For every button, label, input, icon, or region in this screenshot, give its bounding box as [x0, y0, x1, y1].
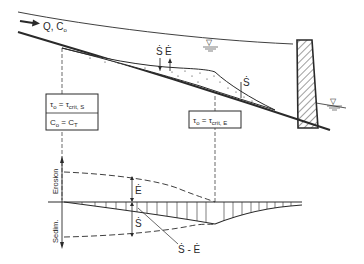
- deposition-dimension: [130, 202, 134, 237]
- net-label-leader: [138, 208, 178, 244]
- net-curve-label: Ṡ - Ė: [178, 243, 201, 255]
- axis-arrow-down-icon: [60, 242, 64, 249]
- svg-text:▽: ▽: [206, 38, 213, 47]
- water-level-symbol-upstream: ▽: [203, 38, 218, 51]
- dam-wall: [297, 40, 318, 128]
- condition-box-left: τo = τcrit, S Co = CT: [46, 94, 98, 130]
- deposition-curve-label: Ṡ: [135, 217, 142, 229]
- water-level-symbol-downstream: ▽: [316, 97, 346, 110]
- inflow-label: Q, Co: [43, 21, 68, 33]
- condition-concentration: Co = CT: [50, 118, 78, 128]
- lower-section: Erosion Sedim. Ė: [48, 156, 302, 255]
- condition-box-right: τo = τcrit, E: [189, 111, 241, 128]
- erosion-dimension: [130, 176, 134, 202]
- upper-section: Q, Co Ṡ Ė Ṡ ▽ ▽: [18, 12, 346, 202]
- net-deposition-curve: [64, 202, 302, 224]
- axis-arrow-up-icon: [60, 156, 64, 163]
- axis-label-erosion: Erosion: [51, 169, 60, 194]
- deposition-label: Ṡ: [156, 45, 163, 57]
- erosion-label: Ė: [165, 45, 172, 57]
- deposition-label-right: Ṡ: [243, 76, 250, 88]
- erosion-curve-label: Ė: [135, 184, 142, 196]
- axis-label-sedimentation: Sedim.: [51, 220, 60, 243]
- svg-text:▽: ▽: [330, 97, 337, 106]
- inflow-arrow: [20, 20, 40, 27]
- sedimentation-diagram: Q, Co Ṡ Ė Ṡ ▽ ▽: [0, 0, 364, 264]
